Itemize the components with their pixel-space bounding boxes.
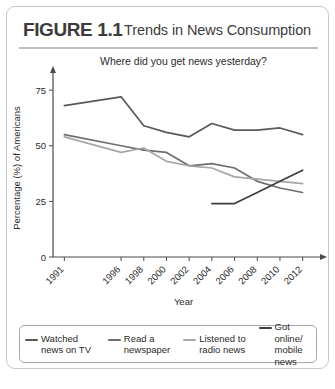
y-axis-arrow — [50, 66, 56, 73]
x-axis-arrow — [320, 254, 327, 260]
y-tick-label: 25 — [35, 196, 46, 207]
figure-number: FIGURE 1.1 — [23, 19, 122, 41]
series-line-1 — [64, 135, 302, 193]
x-tick-label: 1991 — [43, 264, 66, 287]
x-tick-label: 2002 — [168, 264, 191, 287]
chart-subtitle: Where did you get news yesterday? — [100, 55, 267, 67]
legend-label-2: Listened to radio news — [199, 333, 245, 356]
legend-label-1: Read a newspaper — [124, 333, 170, 356]
legend-swatch-3 — [259, 327, 272, 329]
legend-swatch-2 — [183, 339, 196, 341]
x-tick-label: 1996 — [100, 264, 123, 287]
chart-canvas: Where did you get news yesterday?0255075… — [7, 49, 330, 317]
y-tick-label: 75 — [35, 85, 46, 96]
y-axis-title: Percentage (%) of Americans — [11, 106, 22, 230]
legend-label-3: Got online/ mobile news — [275, 321, 316, 367]
legend-item-1: Read a newspaper — [103, 333, 178, 356]
line-chart: Where did you get news yesterday?0255075… — [7, 49, 330, 317]
y-tick-label: 50 — [35, 140, 46, 151]
x-tick-label: 2006 — [213, 264, 236, 287]
legend-item-3: Got online/ mobile news — [254, 321, 316, 367]
legend-swatch-0 — [25, 339, 38, 341]
x-tick-label: 2010 — [259, 264, 282, 287]
series-line-2 — [64, 137, 302, 184]
legend-entries: Watched news on TVRead a newspaperListen… — [20, 326, 316, 362]
legend-swatch-1 — [108, 339, 121, 341]
x-tick-label: 2000 — [145, 264, 168, 287]
x-axis-title: Year — [174, 296, 193, 307]
figure-card: FIGURE 1.1 Trends in News Consumption Wh… — [6, 6, 329, 369]
x-tick-label: 1998 — [122, 264, 145, 287]
x-tick-label: 2008 — [236, 264, 259, 287]
x-tick-label: 2004 — [191, 264, 214, 287]
y-tick-label: 0 — [41, 252, 46, 263]
chart-legend: Watched news on TVRead a newspaperListen… — [19, 325, 317, 363]
legend-item-0: Watched news on TV — [20, 333, 103, 356]
legend-label-0: Watched news on TV — [41, 333, 91, 356]
figure-header: FIGURE 1.1 Trends in News Consumption — [7, 15, 328, 49]
series-line-0 — [64, 97, 302, 137]
x-tick-label: 2012 — [281, 264, 304, 287]
legend-item-2: Listened to radio news — [178, 333, 253, 356]
figure-title: Trends in News Consumption — [124, 22, 311, 38]
series-line-3 — [212, 170, 303, 203]
